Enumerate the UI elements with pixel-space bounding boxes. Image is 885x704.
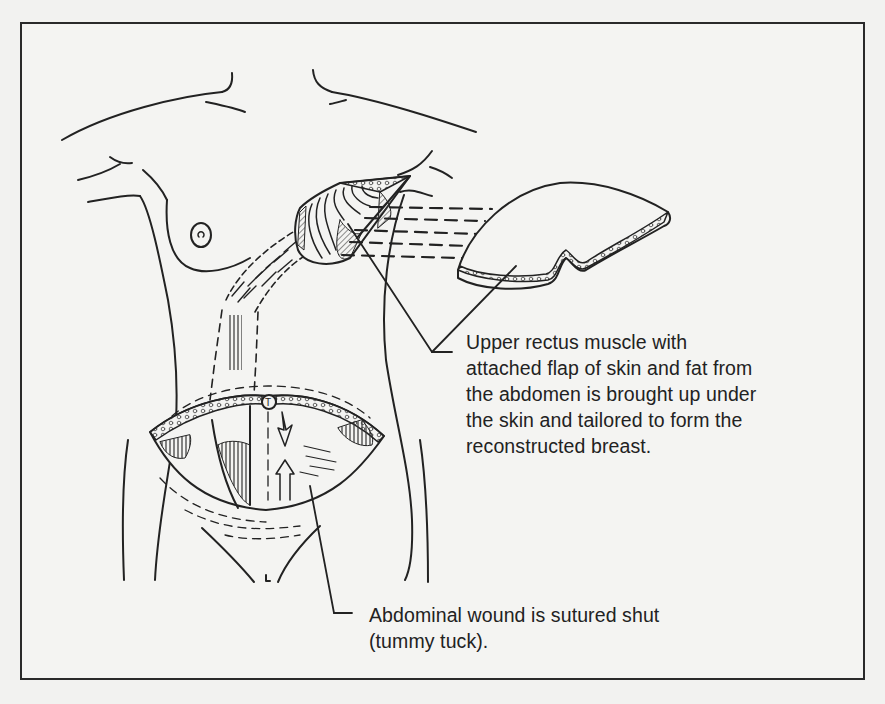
callout-abdominal-line-2: (tummy tuck). (369, 628, 659, 654)
abdominal-wound: T (150, 386, 384, 539)
right-torso-outline (384, 191, 432, 580)
callout-upper-line-5: reconstructed breast. (466, 433, 756, 459)
shoulder-outline (62, 92, 476, 140)
callout-upper-line-2: attached flap of skin and fat from (466, 355, 756, 381)
left-breast (167, 200, 250, 271)
svg-text:T: T (265, 397, 271, 408)
lower-callout-leader (310, 486, 352, 613)
chest-flap (295, 176, 410, 264)
left-torso-outline (140, 170, 177, 580)
reconstructed-breast (458, 183, 670, 289)
neck-outline (222, 70, 332, 92)
callout-abdominal-line-1: Abdominal wound is sutured shut (369, 602, 659, 628)
callout-upper-line-1: Upper rectus muscle with (466, 329, 756, 355)
callout-upper-line-3: the abdomen is brought up under (466, 381, 756, 407)
callout-abdominal-wound: Abdominal wound is sutured shut (tummy t… (369, 602, 659, 654)
callout-upper-line-4: the skin and tailored to form the (466, 407, 756, 433)
callout-upper-rectus: Upper rectus muscle with attached flap o… (466, 329, 756, 459)
